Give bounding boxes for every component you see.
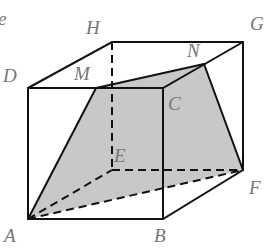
label-n: N: [186, 40, 201, 61]
label-a: A: [2, 225, 16, 246]
label-m: M: [73, 63, 91, 84]
corner-text: e: [0, 8, 6, 29]
label-g: G: [250, 13, 264, 34]
label-f: F: [248, 177, 261, 198]
label-h: H: [85, 17, 101, 38]
label-e: E: [113, 145, 126, 166]
label-d: D: [2, 65, 17, 86]
label-b: B: [154, 225, 166, 246]
label-c: C: [168, 93, 181, 114]
cube-diagram: e H G D M N C E F A B: [0, 0, 272, 248]
